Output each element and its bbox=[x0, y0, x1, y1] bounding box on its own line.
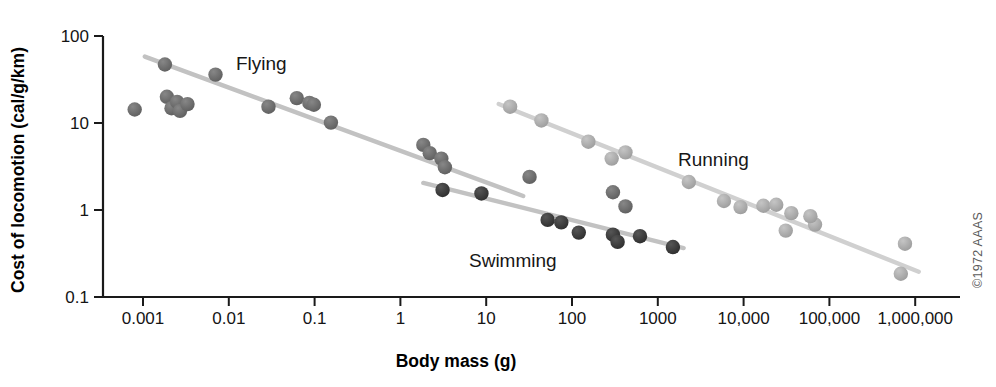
data-point-flying bbox=[208, 67, 222, 81]
data-point-running bbox=[534, 113, 548, 127]
data-point-running bbox=[898, 236, 912, 250]
series-annotations-layer: Flying Running Swimming bbox=[236, 53, 749, 271]
data-point-swimming bbox=[572, 225, 586, 239]
y-tick-label: 10 bbox=[70, 114, 89, 133]
data-point-swimming bbox=[474, 186, 488, 200]
data-point-running bbox=[682, 175, 696, 189]
y-axis-ticks: 0.1110100 bbox=[61, 27, 103, 307]
y-tick-label: 1 bbox=[80, 201, 89, 220]
data-point-flying bbox=[522, 170, 536, 184]
data-point-running bbox=[618, 145, 632, 159]
data-point-flying bbox=[438, 160, 452, 174]
data-point-running bbox=[604, 151, 618, 165]
data-point-flying bbox=[180, 97, 194, 111]
data-point-running bbox=[784, 206, 798, 220]
data-point-swimming bbox=[540, 213, 554, 227]
data-point-running bbox=[756, 199, 770, 213]
axes-layer: 0.1110100 0.0010.010.1110100100010,00010… bbox=[61, 27, 960, 328]
x-tick-label: 10,000 bbox=[718, 309, 770, 328]
data-point-flying bbox=[606, 185, 620, 199]
series-label-flying: Flying bbox=[236, 53, 287, 74]
data-point-flying bbox=[158, 57, 172, 71]
x-tick-label: 1000 bbox=[639, 309, 677, 328]
data-point-swimming bbox=[554, 215, 568, 229]
data-points-layer bbox=[127, 57, 912, 281]
x-tick-label: 100 bbox=[558, 309, 586, 328]
data-point-swimming bbox=[435, 183, 449, 197]
y-tick-label: 0.1 bbox=[65, 288, 89, 307]
chart-figure: 0.1110100 0.0010.010.1110100100010,00010… bbox=[0, 0, 996, 387]
x-tick-label: 0.1 bbox=[303, 309, 327, 328]
data-point-flying bbox=[307, 98, 321, 112]
x-tick-label: 100,000 bbox=[799, 309, 860, 328]
y-axis-title: Cost of locomotion (cal/g/km) bbox=[8, 47, 28, 293]
locomotion-scatter-plot: 0.1110100 0.0010.010.1110100100010,00010… bbox=[0, 0, 996, 387]
x-tick-label: 0.001 bbox=[122, 309, 165, 328]
data-point-running bbox=[894, 267, 908, 281]
series-label-swimming: Swimming bbox=[469, 250, 557, 271]
data-point-flying bbox=[324, 115, 338, 129]
x-axis-ticks: 0.0010.010.1110100100010,000100,0001,000… bbox=[122, 297, 953, 328]
x-tick-label: 1 bbox=[396, 309, 405, 328]
y-tick-label: 100 bbox=[61, 27, 89, 46]
x-tick-label: 0.01 bbox=[212, 309, 245, 328]
data-point-running bbox=[717, 194, 731, 208]
data-point-running bbox=[779, 223, 793, 237]
trendline-running bbox=[499, 104, 919, 272]
data-point-flying bbox=[290, 91, 304, 105]
data-point-running bbox=[769, 198, 783, 212]
copyright-credit: ©1972 AAAS bbox=[971, 212, 985, 288]
data-point-flying bbox=[127, 102, 141, 116]
data-point-flying bbox=[261, 99, 275, 113]
data-point-running bbox=[503, 99, 517, 113]
data-point-running bbox=[581, 134, 595, 148]
x-tick-label: 10 bbox=[477, 309, 496, 328]
data-point-swimming bbox=[666, 240, 680, 254]
data-point-swimming bbox=[633, 229, 647, 243]
trendline-layer bbox=[145, 57, 919, 272]
x-axis-title: Body mass (g) bbox=[396, 351, 517, 371]
data-point-swimming bbox=[610, 235, 624, 249]
series-label-running: Running bbox=[678, 149, 749, 170]
x-tick-label: 1,000,000 bbox=[877, 309, 953, 328]
data-point-running bbox=[803, 209, 817, 223]
data-point-flying bbox=[618, 199, 632, 213]
data-point-running bbox=[733, 200, 747, 214]
